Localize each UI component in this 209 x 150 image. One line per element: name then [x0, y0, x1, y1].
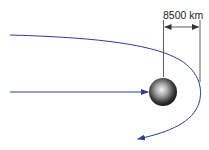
- distance-label: 8500 km: [163, 9, 203, 21]
- flyby-diagram: [0, 0, 209, 150]
- planet: [149, 78, 177, 106]
